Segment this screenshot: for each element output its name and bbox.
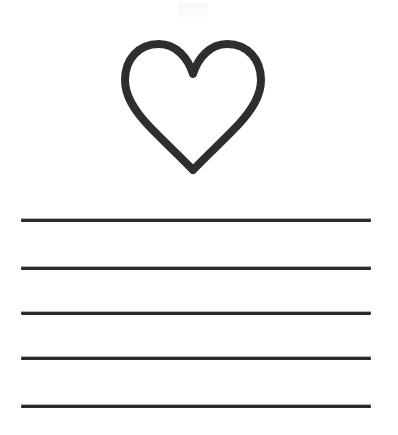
writing-line <box>21 219 371 222</box>
worksheet-page <box>0 0 398 435</box>
writing-line <box>21 357 371 360</box>
writing-lines-group <box>0 0 398 435</box>
writing-line <box>21 267 371 270</box>
writing-line <box>21 312 371 315</box>
writing-line <box>21 405 371 408</box>
